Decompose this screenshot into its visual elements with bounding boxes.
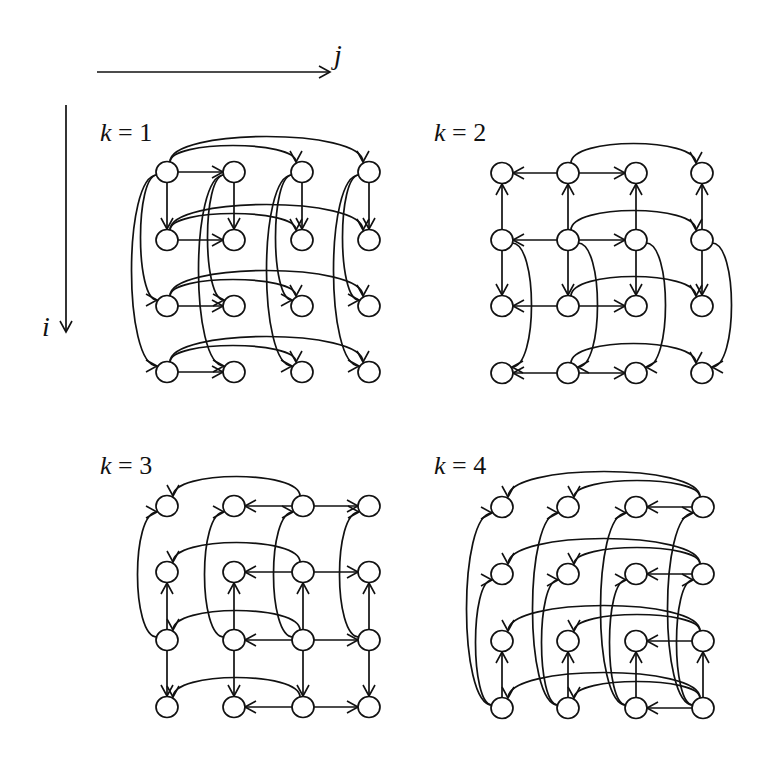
node-i4-j2 bbox=[223, 362, 245, 383]
dependency-graph-diagram: j i k = 1 k = 2 k = 3 k = 4 bbox=[0, 0, 778, 758]
node-i4-j3 bbox=[292, 697, 314, 718]
dependency-edge bbox=[173, 678, 300, 698]
node-i4-j1 bbox=[156, 362, 178, 383]
dependency-edge bbox=[276, 175, 293, 300]
node-i1-j4 bbox=[692, 497, 714, 518]
node-i3-j1 bbox=[491, 296, 513, 317]
node-i1-j2 bbox=[557, 163, 579, 184]
node-i4-j4 bbox=[692, 698, 714, 719]
j-axis: j bbox=[97, 39, 342, 72]
node-i2-j4 bbox=[358, 562, 380, 583]
dependency-edge bbox=[610, 580, 627, 705]
node-i3-j3 bbox=[291, 296, 313, 317]
node-i1-j4 bbox=[358, 162, 380, 183]
dependency-edge bbox=[571, 211, 696, 231]
dependency-edge bbox=[476, 580, 493, 705]
dependency-edge bbox=[138, 512, 158, 637]
dependency-edge bbox=[343, 175, 360, 300]
dependency-edge bbox=[574, 481, 700, 498]
node-i4-j2 bbox=[557, 698, 579, 719]
panel-k4: k = 4 bbox=[434, 451, 714, 719]
node-i1-j3 bbox=[291, 162, 313, 183]
node-i3-j4 bbox=[358, 630, 380, 651]
node-i1-j4 bbox=[691, 163, 713, 184]
dependency-edge bbox=[199, 175, 225, 366]
dependency-edge bbox=[173, 543, 300, 563]
node-i2-j2 bbox=[557, 564, 579, 585]
node-i2-j1 bbox=[156, 230, 178, 251]
dependency-edge bbox=[646, 243, 666, 367]
node-i4-j4 bbox=[358, 362, 380, 383]
node-i1-j1 bbox=[491, 163, 513, 184]
dependency-edge bbox=[334, 175, 360, 366]
node-i4-j2 bbox=[223, 697, 245, 718]
dependency-edge bbox=[542, 580, 559, 705]
node-i4-j3 bbox=[625, 698, 647, 719]
dependency-edge bbox=[571, 344, 696, 364]
panel-k2: k = 2 bbox=[434, 118, 732, 384]
node-i2-j1 bbox=[491, 230, 513, 251]
node-i1-j1 bbox=[156, 162, 178, 183]
node-i4-j4 bbox=[358, 697, 380, 718]
node-i1-j1 bbox=[491, 497, 513, 518]
node-i3-j1 bbox=[156, 296, 178, 317]
node-i2-j4 bbox=[691, 230, 713, 251]
dependency-edge bbox=[574, 615, 700, 632]
panel-k1: k = 1 bbox=[100, 118, 380, 383]
node-i4-j3 bbox=[625, 363, 647, 384]
node-i3-j2 bbox=[223, 630, 245, 651]
dependency-edge bbox=[508, 606, 700, 632]
dependency-edge bbox=[601, 513, 627, 705]
dependency-edge bbox=[467, 513, 493, 705]
node-i3-j3 bbox=[292, 630, 314, 651]
dependency-edge bbox=[170, 280, 296, 297]
node-i3-j1 bbox=[491, 631, 513, 652]
dependency-edge bbox=[170, 137, 363, 163]
dependency-edge bbox=[712, 243, 732, 367]
node-i2-j1 bbox=[156, 562, 178, 583]
dependency-edge bbox=[205, 512, 225, 637]
node-i1-j1 bbox=[156, 496, 178, 517]
dependency-edge bbox=[170, 205, 363, 231]
dependency-edge bbox=[132, 175, 158, 366]
node-i2-j4 bbox=[358, 230, 380, 251]
node-group bbox=[491, 163, 713, 384]
node-i3-j2 bbox=[557, 296, 579, 317]
node-i2-j2 bbox=[223, 230, 245, 251]
node-i4-j1 bbox=[491, 698, 513, 719]
node-i3-j2 bbox=[223, 296, 245, 317]
panel-label: k = 4 bbox=[434, 451, 486, 480]
node-i1-j3 bbox=[625, 497, 647, 518]
node-i3-j4 bbox=[692, 631, 714, 652]
dependency-edge bbox=[170, 146, 296, 163]
dependency-edge bbox=[571, 277, 696, 297]
node-i2-j3 bbox=[625, 564, 647, 585]
dependency-edge bbox=[508, 472, 700, 498]
dependency-edge bbox=[340, 512, 360, 637]
node-i1-j2 bbox=[557, 497, 579, 518]
panel-label: k = 3 bbox=[100, 451, 152, 480]
node-i1-j3 bbox=[625, 163, 647, 184]
node-i1-j4 bbox=[358, 496, 380, 517]
node-i3-j2 bbox=[557, 631, 579, 652]
node-i2-j3 bbox=[625, 230, 647, 251]
node-i4-j1 bbox=[491, 363, 513, 384]
j-axis-label: j bbox=[331, 39, 342, 70]
node-i4-j1 bbox=[156, 697, 178, 718]
node-i3-j3 bbox=[625, 631, 647, 652]
dependency-edge bbox=[141, 175, 158, 300]
node-i4-j2 bbox=[557, 363, 579, 384]
i-axis: i bbox=[42, 105, 66, 342]
node-i2-j2 bbox=[223, 562, 245, 583]
node-i1-j2 bbox=[223, 496, 245, 517]
node-i2-j4 bbox=[692, 564, 714, 585]
dependency-edge bbox=[574, 548, 700, 565]
panel-label: k = 2 bbox=[434, 118, 486, 147]
dependency-edge bbox=[571, 144, 696, 164]
dependency-edge bbox=[170, 337, 363, 363]
node-i2-j2 bbox=[557, 230, 579, 251]
dependency-edge bbox=[668, 513, 694, 705]
node-i4-j4 bbox=[691, 363, 713, 384]
node-i3-j3 bbox=[625, 296, 647, 317]
node-i2-j1 bbox=[491, 564, 513, 585]
